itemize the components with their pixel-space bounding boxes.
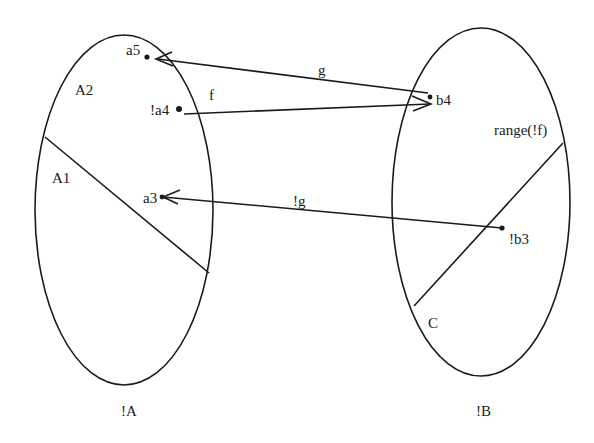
label-b4: b4 (436, 92, 452, 108)
set-a-ellipse (35, 35, 213, 385)
arrow-f (184, 96, 431, 114)
dot-b4 (428, 95, 433, 100)
label-c: C (428, 315, 438, 331)
arrow-g (156, 52, 428, 93)
partition-range-line (414, 143, 563, 306)
label-range: range(!f) (494, 122, 547, 139)
label-a5: a5 (126, 42, 140, 58)
set-mapping-diagram: a5 A2 !a4 A1 a3 !A g f !g b4 range(!f) !… (0, 0, 594, 443)
label-a4: !a4 (150, 102, 170, 118)
label-b3: !b3 (509, 231, 529, 247)
label-arrow-not-g: !g (293, 193, 306, 209)
label-a2: A2 (75, 82, 93, 98)
dot-a4 (176, 106, 182, 112)
dot-a5 (144, 54, 149, 59)
label-a1: A1 (52, 170, 70, 186)
set-b-ellipse (392, 28, 570, 376)
label-a3: a3 (143, 190, 157, 206)
label-arrow-f: f (209, 87, 214, 103)
partition-a1-line (45, 137, 209, 273)
label-set-a: !A (121, 403, 137, 419)
arrow-not-g (163, 190, 502, 228)
label-set-b: !B (476, 403, 491, 419)
dot-b3 (499, 225, 504, 230)
label-arrow-g: g (318, 62, 326, 78)
dot-a3 (160, 195, 165, 200)
